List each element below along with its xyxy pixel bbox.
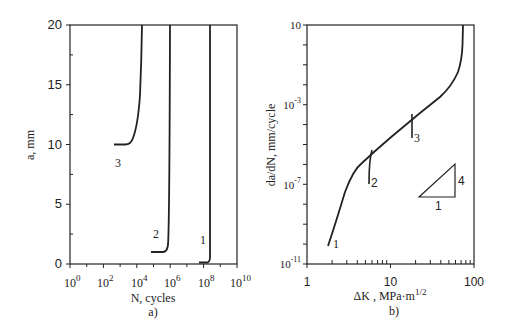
- x-axis-label-a: N, cycles: [131, 291, 176, 305]
- panel-caption-a: a): [148, 305, 157, 319]
- figure: 0 5 10 15 20 a, mm 100 102 104 106 108 1…: [0, 0, 508, 333]
- panel-a-text: 0 5 10 15 20 a, mm 100 102 104 106 108 1…: [23, 17, 252, 319]
- y-tick-label: 15: [48, 77, 62, 92]
- svg-text:10-3: 10-3: [283, 96, 301, 111]
- x-tick-labels-a: 100 102 104 106 108 1010: [64, 273, 252, 290]
- curve-label-1-a: 1: [200, 233, 206, 247]
- svg-text:104: 104: [131, 273, 148, 290]
- svg-text:102: 102: [97, 273, 114, 290]
- y-tick-label: 5: [55, 196, 62, 211]
- x-tick-label: 10: [384, 275, 398, 289]
- svg-text:108: 108: [198, 273, 215, 290]
- panel-caption-b: b): [389, 304, 399, 318]
- svg-text:10: 10: [290, 19, 302, 31]
- y-ticks-b: [303, 25, 307, 264]
- curve-3-a: [114, 25, 142, 145]
- plot-frame-b: [307, 25, 474, 264]
- y-tick-label: 10: [48, 137, 62, 152]
- panel-b: [303, 25, 474, 268]
- x-tick-label: 100: [464, 275, 484, 289]
- y-axis-label-b: da/dN, mm/cycle: [264, 104, 278, 187]
- panel-b-text: 10-11 10-7 10-3 10 da/dN, mm/cycle 1 10 …: [264, 19, 484, 318]
- x-ticks-a: [70, 264, 237, 268]
- svg-text:10-7: 10-7: [283, 176, 301, 191]
- curve-label-3-a: 3: [115, 156, 121, 170]
- slope-triangle-icon: [419, 164, 455, 197]
- x-ticks-b: [307, 260, 474, 268]
- svg-text:100: 100: [64, 273, 81, 290]
- curve-label-2-b: 2: [371, 176, 378, 190]
- triangle-label-vertical: 4: [458, 174, 465, 188]
- svg-text:1010: 1010: [230, 273, 252, 290]
- curve-1-b: [328, 25, 463, 246]
- triangle-label-horizontal: 1: [435, 199, 442, 213]
- curve-1-a: [199, 25, 210, 263]
- svg-text:10-11: 10-11: [280, 255, 301, 270]
- x-tick-label: 1: [304, 275, 311, 289]
- curve-label-3-b: 3: [414, 131, 420, 145]
- y-tick-label: 0: [55, 256, 62, 271]
- y-axis-label-a: a, mm: [23, 129, 37, 160]
- svg-text:106: 106: [164, 273, 181, 290]
- curve-label-2-a: 2: [153, 227, 159, 241]
- panel-a: [66, 25, 237, 268]
- x-axis-label-b: ΔK , MPa·m1/2: [354, 287, 427, 303]
- curve-2-a: [151, 25, 170, 252]
- curve-label-1-b: 1: [333, 237, 339, 251]
- y-tick-label: 20: [48, 17, 62, 32]
